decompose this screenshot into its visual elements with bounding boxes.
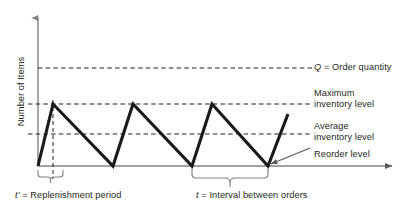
replenishment-period-text: = Replenishment period [20,190,122,200]
interval-between-orders-brace [192,168,268,183]
order-quantity-text: = Order quantity [321,62,391,72]
order-quantity-label: Q = Order quantity [314,62,392,73]
average-inventory-line2: inventory level [314,132,374,143]
interval-between-orders-text: = Interval between orders [199,190,308,200]
replenishment-period-brace [38,170,63,180]
replenishment-period-label: t' = Replenishment period [15,190,121,201]
maximum-inventory-label: Maximum inventory level [314,88,374,109]
inventory-level-curve [38,104,288,166]
y-axis-title: Number of Items [15,50,26,134]
inventory-sawtooth-diagram: Number of Items Q = Order quantity Maxim… [0,0,416,213]
average-inventory-line1: Average [314,121,374,132]
maximum-inventory-line1: Maximum [314,88,374,99]
maximum-inventory-line2: inventory level [314,99,374,110]
reorder-level-leader-line [271,148,310,164]
reorder-level-label: Reorder level [314,149,370,160]
average-inventory-label: Average inventory level [314,121,374,142]
interval-between-orders-label: t = Interval between orders [196,190,308,201]
